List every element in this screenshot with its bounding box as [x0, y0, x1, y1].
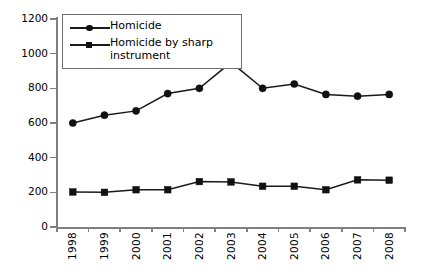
data-point-circle — [132, 107, 139, 114]
data-point-square — [323, 186, 330, 193]
data-point-circle — [322, 91, 329, 98]
legend-label: Homicide by sharp instrument — [110, 37, 232, 62]
data-point-circle — [101, 112, 108, 119]
data-point-circle — [386, 91, 393, 98]
data-point-square — [164, 186, 171, 193]
data-point-circle — [164, 90, 171, 97]
legend-label: Homicide — [110, 20, 162, 33]
legend-item-sharp-instrument: Homicide by sharp instrument — [70, 37, 232, 62]
chart-legend: Homicide Homicide by sharp instrument — [62, 14, 242, 69]
data-point-circle — [69, 119, 76, 126]
data-point-circle — [196, 85, 203, 92]
legend-marker-square-icon — [70, 39, 110, 51]
series-2 — [70, 177, 393, 196]
data-point-square — [70, 189, 77, 196]
legend-item-homicide: Homicide — [70, 20, 232, 34]
data-point-square — [228, 179, 235, 186]
data-point-square — [133, 186, 140, 193]
data-point-square — [196, 178, 203, 185]
series-line — [73, 62, 389, 123]
data-point-square — [291, 183, 298, 190]
data-point-square — [101, 189, 108, 196]
data-point-circle — [259, 85, 266, 92]
line-chart: 020040060080010001200 199819992000200120… — [0, 0, 430, 275]
legend-marker-circle-icon — [70, 22, 110, 34]
data-point-square — [386, 177, 393, 184]
data-point-circle — [291, 80, 298, 87]
data-point-square — [259, 183, 266, 190]
data-point-square — [354, 177, 361, 184]
data-point-circle — [354, 93, 361, 100]
